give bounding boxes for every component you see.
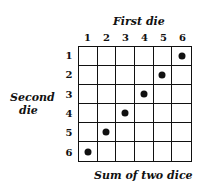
grid-cell (116, 85, 135, 104)
grid-cell (154, 123, 173, 142)
caption: Sum of two dice (94, 169, 193, 182)
grid-cell (135, 47, 154, 66)
grid-cell (135, 142, 154, 161)
grid-cell (79, 123, 98, 142)
grid-cell (172, 104, 191, 123)
grid-cell (135, 66, 154, 85)
dot-marker (84, 148, 91, 155)
row-label: 4 (64, 104, 74, 123)
grid-cell (79, 66, 98, 85)
dot-marker (140, 91, 147, 98)
grid-cell (172, 85, 191, 104)
grid-cell (154, 66, 173, 85)
grid-cell (79, 104, 98, 123)
second-die-title-line1: Second (10, 91, 55, 104)
grid-cell (135, 104, 154, 123)
first-die-title: First die (113, 15, 165, 28)
grid-cell (135, 85, 154, 104)
dice-grid (78, 46, 192, 162)
column-label: 3 (116, 32, 135, 43)
grid-cell (98, 123, 117, 142)
grid-cell (154, 85, 173, 104)
second-die-title-line2: die (19, 104, 38, 117)
dot-marker (178, 53, 185, 60)
column-label: 5 (154, 32, 173, 43)
grid-cell (98, 47, 117, 66)
row-label: 2 (64, 65, 74, 84)
grid-cell (172, 123, 191, 142)
column-label: 6 (173, 32, 192, 43)
grid-cell (116, 66, 135, 85)
row-label: 5 (64, 123, 74, 142)
grid-cell (154, 104, 173, 123)
grid-cell (154, 47, 173, 66)
dot-marker (122, 110, 129, 117)
dot-marker (103, 129, 110, 136)
grid-cell (154, 142, 173, 161)
row-label: 6 (64, 143, 74, 162)
grid-cell (172, 66, 191, 85)
grid-cell (98, 142, 117, 161)
row-label: 1 (64, 46, 74, 65)
grid-cell (79, 85, 98, 104)
grid-cell (116, 123, 135, 142)
grid-cell (172, 47, 191, 66)
grid-cell (135, 123, 154, 142)
grid-cell (98, 66, 117, 85)
grid-cell (79, 47, 98, 66)
grid-cell (79, 142, 98, 161)
column-label: 1 (78, 32, 97, 43)
column-label: 2 (97, 32, 116, 43)
grid-cell (172, 142, 191, 161)
grid-cell (116, 142, 135, 161)
grid-cell (98, 104, 117, 123)
row-label: 3 (64, 85, 74, 104)
grid-cell (116, 47, 135, 66)
column-label: 4 (135, 32, 154, 43)
dot-marker (159, 72, 166, 79)
grid-cell (98, 85, 117, 104)
grid-cell (116, 104, 135, 123)
